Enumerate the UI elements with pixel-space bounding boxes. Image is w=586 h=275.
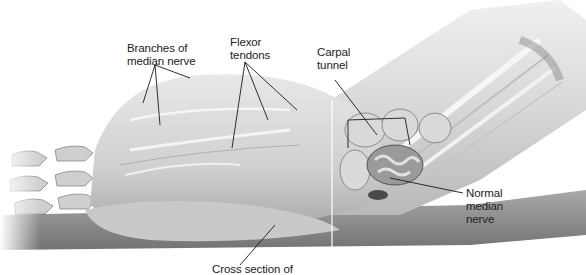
wrist-illustration [0, 0, 586, 275]
anatomy-illustration: Branches of median nerve Flexor tendons … [0, 0, 586, 275]
label-text: Normal [466, 187, 503, 200]
label-text: median [466, 200, 503, 213]
label-text: Carpal [317, 46, 350, 59]
label-text: tunnel [317, 59, 350, 72]
label-branches-of-median-nerve: Branches of median nerve [127, 42, 195, 68]
label-carpal-tunnel: Carpal tunnel [317, 46, 350, 72]
label-text: median nerve [127, 55, 195, 68]
label-text: Cross section of [212, 263, 293, 275]
label-text: Flexor [230, 36, 270, 49]
label-normal-median-nerve: Normal median nerve [466, 187, 503, 226]
label-text: tendons [230, 49, 270, 62]
label-text: Branches of [127, 42, 195, 55]
label-cross-section: Cross section of [212, 263, 293, 275]
label-flexor-tendons: Flexor tendons [230, 36, 270, 62]
label-text: nerve [466, 213, 503, 226]
